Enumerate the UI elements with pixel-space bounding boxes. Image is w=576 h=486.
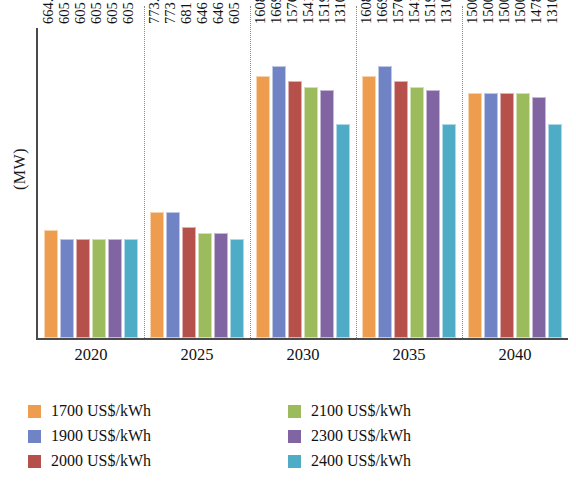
- x-axis-tick-label: 2025: [144, 345, 250, 365]
- bar-wrapper: 605: [108, 28, 122, 338]
- bar-chart: (MW) 664.28605605605605605773.0977368164…: [0, 0, 576, 486]
- bar-value-label: 605: [226, 2, 243, 24]
- legend-color-swatch: [28, 405, 41, 418]
- y-axis-title: (MW): [11, 129, 29, 209]
- bar-value-label: 605: [120, 2, 137, 24]
- bar[interactable]: [256, 76, 270, 338]
- group-separator-line: [250, 6, 251, 338]
- bar[interactable]: [362, 76, 376, 338]
- bar[interactable]: [108, 239, 122, 338]
- bar[interactable]: [76, 239, 90, 338]
- bar-value-label: 1500: [512, 0, 529, 24]
- legend-column-right: 2100 US$/kWh2300 US$/kWh2400 US$/kWh: [288, 402, 548, 470]
- bar-group: 150015001500150014781310: [462, 28, 568, 338]
- legend-item[interactable]: 1700 US$/kWh: [28, 402, 288, 420]
- bar[interactable]: [60, 239, 74, 338]
- bar-value-label: 1519: [316, 0, 333, 24]
- x-axis-tick-label: 2040: [462, 345, 568, 365]
- group-separator-line: [144, 6, 145, 338]
- bar[interactable]: [378, 66, 392, 338]
- bar-wrapper: 773: [166, 28, 180, 338]
- bar-wrapper: 1310: [336, 28, 350, 338]
- bar[interactable]: [516, 93, 530, 338]
- bar-group: 1608.816691576154115191310: [250, 28, 356, 338]
- bar[interactable]: [394, 81, 408, 338]
- bar[interactable]: [230, 239, 244, 338]
- bar[interactable]: [198, 233, 212, 338]
- bar-value-label: 1541: [406, 0, 423, 24]
- bar-value-label: 1310: [332, 0, 349, 24]
- bar-value-label: 681: [178, 2, 195, 24]
- bar-wrapper: 605: [76, 28, 90, 338]
- bar-wrapper: 1669: [272, 28, 286, 338]
- bar-wrapper: 1608.8: [362, 28, 376, 338]
- x-axis-tick-label: 2030: [250, 345, 356, 365]
- bar-value-label: 605: [72, 2, 89, 24]
- bar-value-label: 646: [210, 2, 227, 24]
- bar-group-bars: 664.28605605605605605: [38, 28, 144, 338]
- bar-wrapper: 605: [60, 28, 74, 338]
- bar[interactable]: [150, 212, 164, 338]
- bar[interactable]: [214, 233, 228, 338]
- bar-wrapper: 773.09: [150, 28, 164, 338]
- bar[interactable]: [442, 124, 456, 338]
- bar[interactable]: [532, 97, 546, 338]
- bar-value-label: 605: [88, 2, 105, 24]
- bar[interactable]: [288, 81, 302, 338]
- bar-wrapper: 605: [124, 28, 138, 338]
- bar-wrapper: 1519: [320, 28, 334, 338]
- bar-wrapper: 1608.8: [256, 28, 270, 338]
- bar-wrapper: 605: [230, 28, 244, 338]
- bar[interactable]: [166, 212, 180, 338]
- plot-area: 664.28605605605605605773.097736816466466…: [36, 28, 568, 340]
- bar-value-label: 1541: [300, 0, 317, 24]
- bar-value-label: 605: [56, 2, 73, 24]
- bar-wrapper: 1576: [288, 28, 302, 338]
- bar-group-bars: 1608.816691576154115191310: [250, 28, 356, 338]
- bar[interactable]: [500, 93, 514, 338]
- legend-item[interactable]: 2100 US$/kWh: [288, 402, 548, 420]
- bar[interactable]: [304, 87, 318, 338]
- group-separator-line: [356, 6, 357, 338]
- bar[interactable]: [182, 227, 196, 338]
- bar-value-label: 605: [104, 2, 121, 24]
- bar[interactable]: [548, 124, 562, 338]
- bar-value-label: 664.28: [40, 0, 57, 24]
- legend-item[interactable]: 2400 US$/kWh: [288, 452, 548, 470]
- x-axis-tick-label: 2020: [38, 345, 144, 365]
- bar-value-label: 1500: [480, 0, 497, 24]
- bar-value-label: 1500: [496, 0, 513, 24]
- bar-value-label: 1310: [544, 0, 561, 24]
- bar-wrapper: 646: [214, 28, 228, 338]
- bar[interactable]: [320, 90, 334, 338]
- bar-value-label: 1608.8: [358, 0, 375, 24]
- bar-value-label: 773: [162, 2, 179, 24]
- bar-value-label: 773.09: [146, 0, 163, 24]
- legend-item[interactable]: 2000 US$/kWh: [28, 452, 288, 470]
- bar[interactable]: [336, 124, 350, 338]
- bar[interactable]: [92, 239, 106, 338]
- bar-value-label: 1669: [268, 0, 285, 24]
- legend-color-swatch: [288, 430, 301, 443]
- legend-item[interactable]: 2300 US$/kWh: [288, 427, 548, 445]
- bar-value-label: 1576: [284, 0, 301, 24]
- bar-group: 773.09773681646646605: [144, 28, 250, 338]
- bar[interactable]: [468, 93, 482, 338]
- bar[interactable]: [426, 90, 440, 338]
- group-separator-line: [462, 6, 463, 338]
- bar[interactable]: [124, 239, 138, 338]
- bar-wrapper: 1541: [410, 28, 424, 338]
- bar-value-label: 1519: [422, 0, 439, 24]
- legend-color-swatch: [28, 430, 41, 443]
- bar[interactable]: [484, 93, 498, 338]
- bar[interactable]: [410, 87, 424, 338]
- bar-groups: 664.28605605605605605773.097736816466466…: [38, 28, 568, 338]
- bar[interactable]: [272, 66, 286, 338]
- legend-item[interactable]: 1900 US$/kWh: [28, 427, 288, 445]
- legend-label: 1700 US$/kWh: [51, 402, 151, 420]
- bar-value-label: 1669: [374, 0, 391, 24]
- bar-wrapper: 1310: [442, 28, 456, 338]
- bar-wrapper: 1310: [548, 28, 562, 338]
- bar[interactable]: [44, 230, 58, 338]
- bar-value-label: 1608.8: [252, 0, 269, 24]
